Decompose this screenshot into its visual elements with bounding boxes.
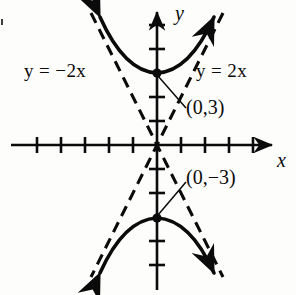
axis-y <box>149 12 165 290</box>
asymptote-label-left: y = −2x <box>24 61 86 80</box>
vertex-label-top: (0,3) <box>186 97 224 117</box>
hyperbola-figure: y = −2x y = 2x y x (0,3) (0,−3) <box>0 0 296 295</box>
scan-artifact-speck <box>1 19 3 25</box>
y-axis-label: y <box>175 3 184 23</box>
vertex-label-bottom: (0,−3) <box>186 167 236 187</box>
axis-x <box>11 137 272 153</box>
graph-canvas <box>0 0 296 295</box>
asymptote-label-right: y = 2x <box>196 61 247 80</box>
vertex-dot-bottom <box>152 213 161 222</box>
x-axis-label: x <box>277 150 286 170</box>
leader-line-vertex-top <box>158 76 186 108</box>
leader-line-vertex-bottom <box>158 182 186 215</box>
vertex-dot-top <box>152 68 161 77</box>
